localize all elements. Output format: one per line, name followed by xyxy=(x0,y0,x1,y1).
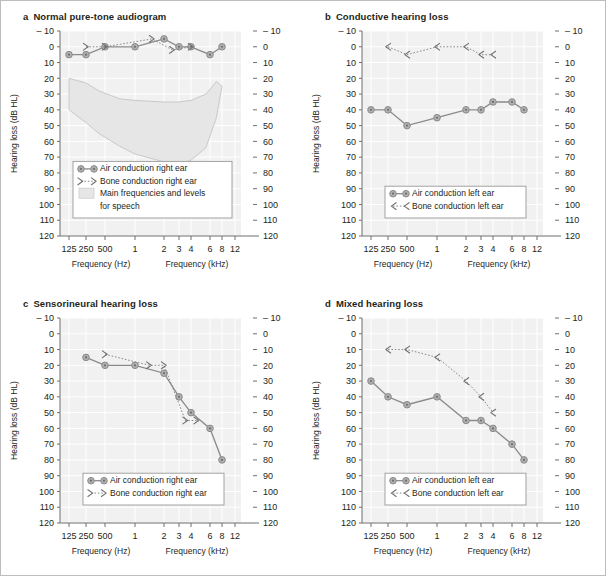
y-tick-label-right: 80 xyxy=(565,455,575,465)
legend[interactable]: Air conduction right earBone conduction … xyxy=(73,161,232,218)
marker-center xyxy=(221,459,223,461)
y-tick-label-right: 120 xyxy=(263,518,278,528)
x-tick-label: 125 xyxy=(61,244,76,254)
y-tick-label-right: 20 xyxy=(263,361,273,371)
y-tick-label: 40 xyxy=(346,392,356,402)
x-tick-label: 125 xyxy=(363,531,378,541)
x-tick-label: 8 xyxy=(219,531,224,541)
x-axis-label-khz: Frequency (kHz) xyxy=(468,546,531,556)
y-tick-label-right: 10 xyxy=(263,345,273,355)
panel-a: aNormal pure-tone audiogram – 1001020304… xyxy=(0,0,303,288)
y-axis-right-ticks: – 100102030405060708090100110120 xyxy=(555,26,583,241)
y-tick-label: 30 xyxy=(44,89,54,99)
x-axis-ticks: 12525050012346812 xyxy=(363,236,542,254)
y-axis-label: Hearing loss (dB HL) xyxy=(311,94,321,173)
y-tick-label: 100 xyxy=(39,487,54,497)
marker-center xyxy=(406,125,408,127)
y-tick-label: 10 xyxy=(346,58,356,68)
y-tick-label: 70 xyxy=(44,152,54,162)
x-tick-label: 500 xyxy=(399,531,414,541)
legend-label: Bone conduction left ear xyxy=(412,488,504,498)
marker-center xyxy=(209,54,211,56)
x-tick-label: 1 xyxy=(132,244,137,254)
y-axis-left-ticks: – 100102030405060708090100110120 xyxy=(36,26,60,241)
y-tick-label: 0 xyxy=(49,42,54,52)
marker-center xyxy=(405,193,407,195)
marker-center xyxy=(480,419,482,421)
x-tick-label: 2 xyxy=(161,531,166,541)
legend-label: Bone conduction right ear xyxy=(110,488,207,498)
y-tick-label-right: 40 xyxy=(263,392,273,402)
legend-label: Air conduction left ear xyxy=(412,475,494,485)
y-tick-label-right: 20 xyxy=(565,361,575,371)
marker-center xyxy=(387,109,389,111)
y-tick-label-right: 90 xyxy=(263,184,273,194)
legend-label: Main frequencies and levels xyxy=(100,188,205,198)
y-tick-label: 50 xyxy=(44,121,54,131)
y-tick-label: 80 xyxy=(44,168,54,178)
x-axis-label-hz: Frequency (Hz) xyxy=(72,546,131,556)
x-axis-label-hz: Frequency (Hz) xyxy=(374,546,433,556)
y-tick-label: 110 xyxy=(342,215,356,225)
x-tick-label: 12 xyxy=(230,531,240,541)
x-tick-label: 4 xyxy=(188,244,193,254)
panel-b-svg: – 100102030405060708090100110120– 100102… xyxy=(303,1,606,289)
y-tick-label-right: 0 xyxy=(565,42,570,52)
x-tick-label: 125 xyxy=(363,244,378,254)
x-tick-label: 1 xyxy=(132,531,137,541)
legend[interactable]: Air conduction left earBone conduction l… xyxy=(385,186,526,218)
legend[interactable]: Air conduction right earBone conduction … xyxy=(83,473,224,505)
y-tick-label: 20 xyxy=(44,74,54,84)
panel-d: dMixed hearing loss – 100102030405060708… xyxy=(303,288,606,576)
x-tick-label: 3 xyxy=(478,244,483,254)
y-tick-label: 50 xyxy=(346,121,356,131)
x-tick-label: 2 xyxy=(463,531,468,541)
y-tick-label: 70 xyxy=(346,439,356,449)
y-tick-label: 120 xyxy=(39,231,54,241)
legend[interactable]: Air conduction left earBone conduction l… xyxy=(385,473,526,505)
marker-center xyxy=(523,459,525,461)
y-tick-label-right: 120 xyxy=(263,231,278,241)
marker-center xyxy=(465,419,467,421)
y-tick-label: 30 xyxy=(44,376,54,386)
y-tick-label-right: 50 xyxy=(263,408,273,418)
x-tick-label: 250 xyxy=(78,244,93,254)
y-tick-label: 90 xyxy=(44,471,54,481)
y-tick-label-right: 110 xyxy=(565,502,579,512)
legend-item[interactable]: for speech xyxy=(100,201,140,211)
y-tick-label-right: 30 xyxy=(263,376,273,386)
y-tick-label-right: 10 xyxy=(565,345,575,355)
y-tick-label-right: 30 xyxy=(565,376,575,386)
marker-center xyxy=(104,364,106,366)
y-tick-label: 120 xyxy=(341,231,356,241)
y-axis-right-ticks: – 100102030405060708090100110120 xyxy=(253,26,281,241)
x-tick-label: 1 xyxy=(434,531,439,541)
x-tick-label: 250 xyxy=(380,244,395,254)
y-tick-label: 90 xyxy=(346,184,356,194)
y-tick-label-right: 0 xyxy=(263,42,268,52)
x-tick-label: 6 xyxy=(207,244,212,254)
y-tick-label: 60 xyxy=(44,137,54,147)
y-tick-label: 90 xyxy=(346,471,356,481)
y-tick-label-right: 40 xyxy=(263,105,273,115)
x-tick-label: 2 xyxy=(161,244,166,254)
marker-center xyxy=(190,412,192,414)
legend-swatch-speech-band xyxy=(79,188,94,198)
y-tick-label: 120 xyxy=(341,518,356,528)
y-axis-label: Hearing loss (dB HL) xyxy=(311,381,321,460)
y-tick-label: – 10 xyxy=(36,313,54,323)
y-tick-label-right: 0 xyxy=(565,329,570,339)
y-tick-label: 50 xyxy=(44,408,54,418)
marker-center xyxy=(405,480,407,482)
x-tick-label: 1 xyxy=(434,244,439,254)
x-axis-label-khz: Frequency (kHz) xyxy=(166,259,229,269)
marker-center xyxy=(436,396,438,398)
x-tick-label: 8 xyxy=(219,244,224,254)
legend-label: Air conduction left ear xyxy=(412,188,494,198)
y-axis-right-ticks: – 100102030405060708090100110120 xyxy=(253,313,281,528)
x-tick-label: 500 xyxy=(97,531,112,541)
x-tick-label: 6 xyxy=(509,531,514,541)
y-tick-label-right: 50 xyxy=(565,121,575,131)
y-tick-label: 90 xyxy=(44,184,54,194)
y-tick-label: 10 xyxy=(44,345,54,355)
